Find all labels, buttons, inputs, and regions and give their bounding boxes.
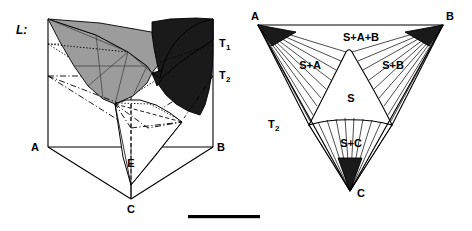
left-diagram: A B C E T 1 T 2 [31,18,231,215]
field-label-S-B: S+B [382,59,404,71]
vertex-label-C: C [127,203,135,215]
liquidus-surface-dark [152,18,213,115]
right-diagram: A B C S+A+B S+A S+B S S+C T 2 [251,10,454,199]
field-label-S-C: S+C [340,137,362,149]
vertex-label-B: B [217,141,225,153]
field-label-S: S [347,92,354,104]
liquidus-surface-light [48,19,168,104]
ternary-vertex-label-B: B [446,10,454,22]
isotherm-T2-letter: T [219,69,226,81]
ternary-T2-letter: T [268,118,275,130]
scale-bar [188,215,260,218]
eutectic-trough-surface [115,100,182,185]
isotherm-T2-subscript: 2 [226,75,231,84]
ternary-isotherm-label-T2: T 2 [268,118,280,133]
field-label-S-A: S+A [299,59,321,71]
vertex-label-E: E [127,157,134,169]
ternary-T2-subscript: 2 [275,124,280,133]
isotherm-T1-letter: T [219,37,226,49]
panel-label: L: [16,23,27,37]
ternary-vertex-label-C: C [357,187,365,199]
isotherm-T1-subscript: 1 [226,43,231,52]
figure-svg: L: [0,0,472,231]
isotherm-label-T1: T 1 [219,37,231,52]
field-label-S-A-B: S+A+B [343,31,379,43]
figure-root: L: [0,0,472,231]
vertex-label-A: A [31,141,39,153]
boundary-B-right [392,25,443,125]
ternary-vertex-label-A: A [251,10,259,22]
isotherm-label-T2: T 2 [219,69,231,84]
